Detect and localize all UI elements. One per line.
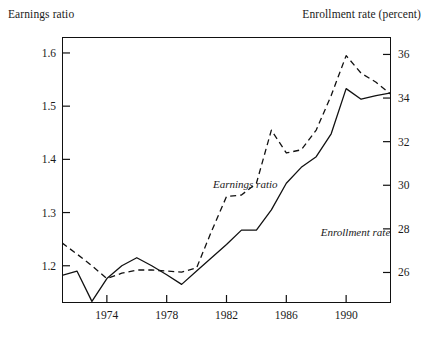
y-tick-label-left: 1.2 xyxy=(14,260,56,272)
y-tick-label-right: 36 xyxy=(398,48,410,60)
x-tick-label: 1978 xyxy=(155,309,178,321)
y-tick-label-left: 1.5 xyxy=(14,100,56,112)
chart-container: Earnings ratio Enrollment rate (percent)… xyxy=(0,0,429,344)
y-tick-label-right: 30 xyxy=(398,179,410,191)
y-tick-label-left: 1.6 xyxy=(14,47,56,59)
y-tick-label-right: 32 xyxy=(398,136,410,148)
y-tick-label-left: 1.3 xyxy=(14,207,56,219)
x-tick-label: 1974 xyxy=(95,309,118,321)
x-tick-label: 1990 xyxy=(335,309,358,321)
series-annotation: Earnings ratio xyxy=(213,178,277,190)
x-tick-label: 1982 xyxy=(215,309,238,321)
y-tick-label-right: 34 xyxy=(398,92,410,104)
y-tick-label-right: 28 xyxy=(398,223,410,235)
chart-plot-area xyxy=(0,0,429,344)
series-annotation: Enrollment rate xyxy=(321,226,391,238)
series-line-enrollment-rate xyxy=(62,89,391,302)
x-tick-label: 1986 xyxy=(275,309,298,321)
y-tick-label-right: 26 xyxy=(398,266,410,278)
y-tick-label-left: 1.4 xyxy=(14,153,56,165)
